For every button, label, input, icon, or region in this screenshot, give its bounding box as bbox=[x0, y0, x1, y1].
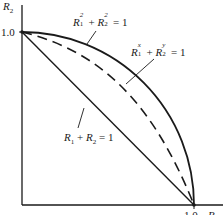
eq-term: R bbox=[97, 16, 104, 28]
eq-rhs: = 1 bbox=[110, 16, 127, 28]
eq-sub: 1 bbox=[138, 51, 142, 58]
y-tick-label: 1.0 bbox=[1, 27, 15, 38]
eq-term: R bbox=[73, 16, 80, 28]
x-axis-label-main: R bbox=[208, 209, 215, 215]
eq-sub: 1 bbox=[80, 21, 84, 28]
y-axis-label: R2 bbox=[3, 1, 13, 15]
x-axis-label: R1 bbox=[208, 210, 218, 215]
eq-rhs: = 1 bbox=[96, 131, 113, 143]
circle-equation-label: R21 + R22 = 1 bbox=[73, 16, 127, 28]
eq-sub: 2 bbox=[104, 21, 108, 28]
x-tick-label: 1.0 bbox=[184, 210, 198, 215]
linear-leader bbox=[78, 108, 84, 128]
point-1-0 bbox=[192, 203, 196, 207]
eq-plus: + bbox=[74, 131, 86, 143]
eq-sup: 2 bbox=[80, 12, 84, 19]
eq-term: R bbox=[86, 131, 93, 143]
eq-rhs: = 1 bbox=[168, 46, 185, 58]
dashed-equation-label: Rx1 + Ry2 = 1 bbox=[131, 46, 185, 58]
y-axis-label-sub: 2 bbox=[10, 7, 14, 15]
eq-term: R bbox=[64, 131, 71, 143]
eq-sup: y bbox=[162, 42, 165, 49]
eq-plus: + bbox=[144, 46, 156, 58]
linear-equation-label: R1 + R2 = 1 bbox=[64, 132, 113, 146]
eq-sup: 2 bbox=[104, 12, 108, 19]
diagram-canvas bbox=[0, 0, 223, 215]
eq-term: R bbox=[131, 46, 138, 58]
circle-leader bbox=[87, 31, 96, 44]
eq-sub: 2 bbox=[162, 51, 166, 58]
eq-sup: x bbox=[138, 42, 141, 49]
eq-plus: + bbox=[86, 16, 98, 28]
y-axis-label-main: R bbox=[3, 0, 10, 12]
point-0-1 bbox=[20, 30, 24, 34]
